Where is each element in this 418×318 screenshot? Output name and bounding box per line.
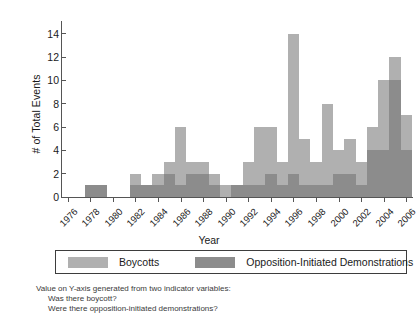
- bar-stack-1998: [310, 162, 321, 197]
- x-tick-1998: [316, 198, 317, 202]
- x-tick-label-1982: 1982: [124, 206, 147, 229]
- bar-segment-opposition-1997: [299, 185, 310, 197]
- x-tick-label-1994: 1994: [260, 206, 283, 229]
- x-tick-2000: [339, 198, 340, 202]
- bar-stack-1994: [265, 127, 276, 197]
- bar-segment-boycotts-1996: [288, 34, 299, 174]
- bar-segment-boycotts-1993: [254, 127, 265, 185]
- bar-segment-opposition-1985: [164, 174, 175, 197]
- bar-segment-boycotts-1987: [186, 162, 197, 174]
- bar-segment-opposition-2000: [333, 174, 344, 197]
- bar-segment-opposition-1978: [85, 185, 96, 197]
- footnote-line-1: Value on Y-axis generated from two indic…: [36, 284, 231, 294]
- bar-segment-opposition-1982: [130, 185, 141, 197]
- x-tick-2002: [361, 198, 362, 202]
- bar-segment-opposition-1983: [141, 185, 152, 197]
- x-axis-line: [61, 197, 413, 198]
- bar-segment-opposition-2003: [367, 150, 378, 197]
- bar-segment-opposition-1988: [197, 174, 208, 197]
- x-tick-label-2004: 2004: [373, 206, 396, 229]
- bar-segment-boycotts-1997: [299, 139, 310, 186]
- bar-segment-opposition-1998: [310, 185, 321, 197]
- y-tick-mark: [62, 173, 66, 174]
- bar-stack-2005: [389, 57, 400, 197]
- bar-segment-opposition-1994: [265, 174, 276, 197]
- legend-swatch-opposition-demonstrations: [195, 257, 235, 268]
- legend-item-boycotts: Boycotts: [68, 256, 159, 268]
- y-tick-label: 14: [47, 28, 62, 40]
- x-tick-label-1986: 1986: [170, 206, 193, 229]
- bar-stack-1995: [277, 162, 288, 197]
- bar-segment-boycotts-2001: [344, 139, 355, 174]
- legend-label-boycotts: Boycotts: [119, 256, 159, 268]
- y-tick-10: 10: [47, 74, 62, 86]
- bar-stack-2001: [344, 139, 355, 197]
- x-tick-label-1984: 1984: [147, 206, 170, 229]
- bar-segment-boycotts-1986: [175, 127, 186, 185]
- bar-segment-opposition-1996: [288, 174, 299, 197]
- bar-segment-boycotts-1984: [152, 174, 163, 186]
- bar-segment-boycotts-1982: [130, 174, 141, 186]
- x-tick-label-1998: 1998: [305, 206, 328, 229]
- x-tick-label-2002: 2002: [350, 206, 373, 229]
- bar-stack-2006: [401, 115, 412, 197]
- bar-stack-1984: [152, 174, 163, 197]
- bar-segment-boycotts-1988: [197, 162, 208, 174]
- bar-segment-opposition-1989: [209, 185, 220, 197]
- bar-stack-1999: [322, 104, 333, 197]
- y-tick-14: 14: [47, 28, 62, 40]
- bar-segment-opposition-1987: [186, 174, 197, 197]
- bar-segment-opposition-1999: [322, 185, 333, 197]
- bar-segment-boycotts-2000: [333, 150, 344, 173]
- bar-segment-opposition-1993: [254, 185, 265, 197]
- y-tick-mark: [62, 150, 66, 151]
- footnote-line-3: Were there opposition-initiated demonstr…: [36, 304, 231, 314]
- y-tick-label: 6: [53, 121, 62, 133]
- bar-segment-opposition-1992: [243, 185, 254, 197]
- bar-stack-2004: [378, 80, 389, 197]
- y-tick-mark: [62, 80, 66, 81]
- chart-legend: Boycotts Opposition-Initiated Demonstrat…: [55, 250, 407, 274]
- bar-stack-1997: [299, 139, 310, 197]
- bar-segment-boycotts-1998: [310, 162, 321, 185]
- x-tick-label-1978: 1978: [79, 206, 102, 229]
- bar-stack-1983: [141, 185, 152, 197]
- y-tick-mark: [62, 127, 66, 128]
- chart-footnote: Value on Y-axis generated from two indic…: [36, 284, 231, 315]
- bar-segment-boycotts-1994: [265, 127, 276, 174]
- bar-segment-boycotts-1990: [220, 185, 231, 197]
- y-tick-label: 10: [47, 74, 62, 86]
- y-tick-6: 6: [53, 121, 62, 133]
- x-tick-1990: [226, 198, 227, 202]
- bar-stack-2002: [356, 162, 367, 197]
- bar-stack-1985: [164, 162, 175, 197]
- x-tick-1988: [203, 198, 204, 202]
- x-tick-1982: [135, 198, 136, 202]
- y-axis-title: # of Total Events: [30, 34, 42, 194]
- bar-segment-boycotts-2002: [356, 162, 367, 185]
- x-tick-label-2006: 2006: [395, 206, 418, 229]
- x-tick-1980: [113, 198, 114, 202]
- bar-segment-boycotts-2006: [401, 115, 412, 150]
- bar-segment-boycotts-1995: [277, 162, 288, 185]
- y-tick-0: 0: [53, 191, 62, 203]
- bar-segment-opposition-2002: [356, 185, 367, 197]
- x-tick-1976: [68, 198, 69, 202]
- y-tick-label: 12: [47, 51, 62, 63]
- bar-stack-1993: [254, 127, 265, 197]
- bar-stack-1990: [220, 185, 231, 197]
- x-tick-label-1980: 1980: [102, 206, 125, 229]
- bar-segment-boycotts-1985: [164, 162, 175, 174]
- bar-stack-1978: [85, 185, 96, 197]
- x-tick-2006: [406, 198, 407, 202]
- legend-item-opposition-demonstrations: Opposition-Initiated Demonstrations: [195, 256, 413, 268]
- bar-segment-opposition-1995: [277, 185, 288, 197]
- bar-segment-opposition-1984: [152, 185, 163, 197]
- x-tick-label-1988: 1988: [192, 206, 215, 229]
- legend-label-opposition-demonstrations: Opposition-Initiated Demonstrations: [246, 256, 413, 268]
- x-tick-1994: [271, 198, 272, 202]
- bar-segment-boycotts-2005: [389, 57, 400, 80]
- bar-segment-opposition-1979: [96, 185, 107, 197]
- bar-stack-2003: [367, 127, 378, 197]
- bar-chart-figure: # of Total Events 02468101214 1976197819…: [0, 0, 418, 318]
